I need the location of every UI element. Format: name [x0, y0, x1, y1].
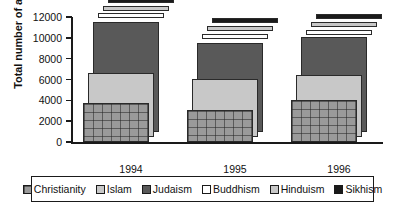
x-axis-label-1995: 1995 — [200, 163, 270, 175]
x-axis-line — [71, 142, 383, 144]
legend-label: Judaism — [153, 184, 192, 195]
chart-container: Total number of articles 120001000080006… — [0, 0, 404, 217]
x-axis-label-1996: 1996 — [304, 163, 374, 175]
legend-item-islam[interactable]: Islam — [96, 184, 132, 195]
bar-buddhism-1994 — [98, 13, 164, 18]
bar-sikhism-1995 — [212, 18, 278, 23]
legend-label: Sikhism — [345, 184, 382, 195]
y-tick-label: 10000 — [16, 33, 62, 43]
legend-item-sikhism[interactable]: Sikhism — [334, 184, 382, 195]
bar-hinduism-1996 — [311, 22, 377, 27]
y-tick-mark — [66, 37, 72, 39]
y-tick-label: 2000 — [16, 116, 62, 126]
legend-swatch-icon — [334, 185, 343, 194]
bar-christianity-1996 — [291, 100, 357, 142]
y-tick-mark — [66, 100, 72, 102]
legend-item-christianity[interactable]: Christianity — [23, 184, 86, 195]
y-tick-label: 4000 — [16, 95, 62, 105]
legend-swatch-icon — [96, 185, 105, 194]
legend-label: Christianity — [34, 184, 86, 195]
legend-swatch-icon — [202, 185, 211, 194]
y-tick-mark — [66, 141, 72, 143]
legend-label: Islam — [107, 184, 132, 195]
bar-christianity-1994 — [83, 103, 149, 142]
bar-buddhism-1995 — [202, 34, 268, 39]
legend-swatch-icon — [142, 185, 151, 194]
bar-christianity-1995 — [187, 110, 253, 142]
bar-sikhism-1994 — [108, 0, 174, 3]
legend-label: Hinduism — [281, 184, 325, 195]
legend-swatch-icon — [270, 185, 279, 194]
y-tick-label: 8000 — [16, 54, 62, 64]
y-tick-mark — [66, 16, 72, 18]
legend-swatch-icon — [23, 185, 32, 194]
legend-label: Buddhism — [213, 184, 260, 195]
y-tick-mark — [66, 120, 72, 122]
y-tick-label: 6000 — [16, 75, 62, 85]
chart-legend: ChristianityIslamJudaismBuddhismHinduism… — [31, 176, 374, 202]
legend-item-judaism[interactable]: Judaism — [142, 184, 192, 195]
y-tick-mark — [66, 58, 72, 60]
x-axis-label-1994: 1994 — [96, 163, 166, 175]
bar-hinduism-1994 — [103, 6, 169, 11]
plot-area: 120001000080006000400020000 199419951996… — [71, 17, 383, 142]
y-tick-label: 12000 — [16, 12, 62, 22]
legend-item-buddhism[interactable]: Buddhism — [202, 184, 260, 195]
bar-buddhism-1996 — [306, 30, 372, 35]
y-tick-mark — [66, 79, 72, 81]
bar-hinduism-1995 — [207, 26, 273, 31]
bar-sikhism-1996 — [316, 14, 382, 19]
legend-item-hinduism[interactable]: Hinduism — [270, 184, 325, 195]
y-tick-label: 0 — [16, 137, 62, 147]
